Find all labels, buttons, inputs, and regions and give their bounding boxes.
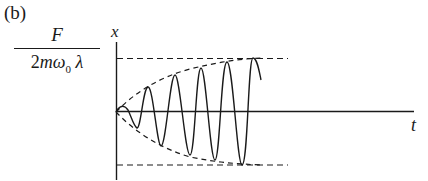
oscillation-plot <box>0 0 428 181</box>
upper-envelope-dashed <box>116 58 262 112</box>
